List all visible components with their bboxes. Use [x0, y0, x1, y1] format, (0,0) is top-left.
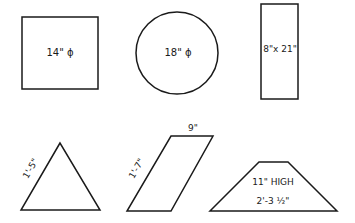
square-shape: 14" ɸ [22, 17, 98, 89]
trapezoid-height-label: 11" HIGH [252, 177, 294, 187]
rectangle-shape: 8"x 21" [261, 4, 298, 99]
parallelogram-shape: 1'-7" 9" [127, 123, 213, 211]
parallelogram-outline [127, 136, 213, 211]
triangle-side-label: 1'-5" [21, 157, 40, 180]
circle-shape: 18" ɸ [136, 12, 218, 94]
trapezoid-base-label: 2'-3 ½" [257, 196, 290, 206]
shapes-diagram: 14" ɸ 18" ɸ 8"x 21" 1'-5" 1'-7" 9" 11" H… [0, 0, 355, 223]
triangle-outline [21, 143, 100, 210]
trapezoid-shape: 11" HIGH 2'-3 ½" [210, 162, 337, 211]
parallelogram-side-label: 1'-7" [127, 157, 146, 180]
square-label: 14" ɸ [46, 47, 74, 58]
circle-label: 18" ɸ [164, 47, 192, 58]
triangle-shape: 1'-5" [21, 143, 100, 210]
rectangle-label: 8"x 21" [263, 44, 297, 54]
parallelogram-top-label: 9" [188, 123, 198, 133]
